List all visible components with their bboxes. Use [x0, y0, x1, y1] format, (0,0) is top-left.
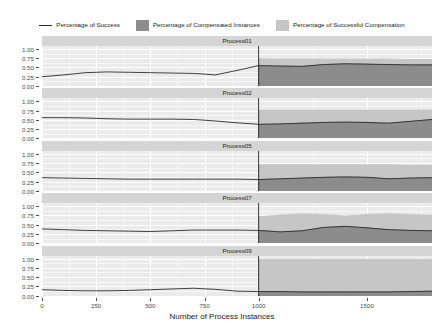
facet-panel: Process010.000.250.500.751.00: [0, 36, 444, 88]
y-tick-label: 1.00: [22, 203, 34, 210]
y-tick-label: 1.00: [22, 45, 34, 52]
x-tick-label: 500: [145, 302, 155, 310]
legend-item-label: Percentage of Compensated Instances: [153, 21, 260, 29]
legend-key-compensated: [136, 20, 149, 31]
plot-area: [42, 256, 432, 296]
y-tick-mark: [36, 67, 39, 68]
y-axis: 0.000.250.500.751.00: [0, 203, 40, 243]
y-tick-label: 0.25: [22, 283, 34, 290]
facet-panel: Process020.000.250.500.751.00: [0, 88, 444, 140]
y-tick-mark: [36, 138, 39, 139]
facet-strip: Process07: [42, 193, 432, 203]
y-tick-mark: [36, 101, 39, 102]
facet-strip-label: Process09: [222, 247, 251, 255]
y-tick-label: 0.75: [22, 212, 34, 219]
faceted-area-chart: Percentage of SuccessPercentage of Compe…: [0, 0, 444, 327]
y-tick-mark: [36, 111, 39, 112]
y-tick-mark: [36, 234, 39, 235]
x-axis: 025050075010001500: [42, 298, 432, 310]
y-tick-mark: [36, 77, 39, 78]
x-tick-label: 0: [40, 302, 43, 310]
y-tick-mark: [36, 120, 39, 121]
y-axis: 0.000.250.500.751.00: [0, 46, 40, 86]
legend-item-label: Percentage of Success: [56, 21, 120, 29]
y-tick-mark: [36, 206, 39, 207]
plot-area: [42, 203, 432, 243]
plot-area: [42, 46, 432, 86]
x-tick-label: 750: [199, 302, 209, 310]
y-tick-label: 0.50: [22, 274, 34, 281]
y-axis: 0.000.250.500.751.00: [0, 98, 40, 138]
series-layer: [42, 46, 432, 86]
y-tick-mark: [36, 286, 39, 287]
legend-item: Percentage of Success: [39, 20, 120, 31]
y-tick-label: 0.25: [22, 230, 34, 237]
y-tick-mark: [36, 277, 39, 278]
y-tick-label: 0.50: [22, 221, 34, 228]
x-axis-title: Number of Process Instances: [0, 312, 444, 322]
series-layer: [42, 203, 432, 243]
facet-panel: Process050.000.250.500.751.00: [0, 141, 444, 193]
legend-item-label: Percentage of Successful Compensation: [293, 21, 405, 29]
facet-strip: Process09: [42, 246, 432, 256]
facet-strip-label: Process05: [222, 142, 251, 150]
y-tick-label: 1.00: [22, 255, 34, 262]
series-layer: [42, 256, 432, 296]
x-tick-label: 250: [91, 302, 101, 310]
facet-stack: Process010.000.250.500.751.00Process020.…: [0, 36, 444, 298]
y-tick-mark: [36, 296, 39, 297]
y-tick-mark: [36, 163, 39, 164]
x-tick-label: 1500: [360, 302, 374, 310]
facet-strip-label: Process01: [222, 37, 251, 45]
y-tick-label: 1.00: [22, 150, 34, 157]
y-tick-mark: [36, 58, 39, 59]
series-layer: [42, 98, 432, 138]
series-layer: [42, 151, 432, 191]
y-tick-label: 0.75: [22, 55, 34, 62]
y-axis: 0.000.250.500.751.00: [0, 151, 40, 191]
y-tick-label: 0.50: [22, 64, 34, 71]
facet-strip: Process02: [42, 88, 432, 98]
y-tick-mark: [36, 243, 39, 244]
y-tick-label: 0.75: [22, 264, 34, 271]
legend-key-successful-compensation: [276, 20, 289, 31]
y-tick-label: 0.50: [22, 169, 34, 176]
area-compensated-instances: [259, 63, 432, 86]
y-tick-mark: [36, 172, 39, 173]
y-tick-mark: [36, 182, 39, 183]
y-tick-label: 0.25: [22, 178, 34, 185]
y-tick-mark: [36, 86, 39, 87]
y-tick-label: 0.25: [22, 126, 34, 133]
y-tick-mark: [36, 259, 39, 260]
y-tick-label: 0.75: [22, 160, 34, 167]
facet-strip-label: Process07: [222, 194, 251, 202]
y-tick-mark: [36, 129, 39, 130]
plot-area: [42, 151, 432, 191]
facet-panel: Process090.000.250.500.751.00: [0, 246, 444, 298]
legend-item: Percentage of Compensated Instances: [136, 20, 260, 31]
y-tick-mark: [36, 215, 39, 216]
facet-panel: Process070.000.250.500.751.00: [0, 193, 444, 245]
facet-strip-label: Process02: [222, 89, 251, 97]
y-tick-mark: [36, 49, 39, 50]
facet-strip: Process05: [42, 141, 432, 151]
plot-area: [42, 98, 432, 138]
y-tick-mark: [36, 154, 39, 155]
x-tick-label: 1000: [252, 302, 266, 310]
y-tick-label: 0.75: [22, 107, 34, 114]
y-tick-label: 0.25: [22, 73, 34, 80]
y-tick-label: 1.00: [22, 98, 34, 105]
y-axis: 0.000.250.500.751.00: [0, 256, 40, 296]
chart-legend: Percentage of SuccessPercentage of Compe…: [0, 17, 444, 33]
area-successful-compensation: [259, 259, 432, 296]
y-tick-label: 0.00: [22, 292, 34, 299]
y-tick-mark: [36, 191, 39, 192]
legend-key-success: [39, 20, 52, 31]
facet-strip: Process01: [42, 36, 432, 46]
legend-item: Percentage of Successful Compensation: [276, 20, 405, 31]
y-tick-mark: [36, 268, 39, 269]
y-tick-label: 0.50: [22, 116, 34, 123]
y-tick-mark: [36, 225, 39, 226]
